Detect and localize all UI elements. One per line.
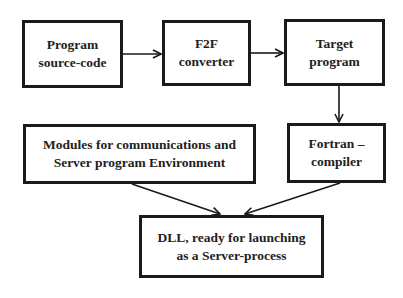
node-label-line: as a Server-process xyxy=(176,247,286,265)
node-label-line: Modules for communications and xyxy=(43,136,236,154)
flowchart-canvas: Program source-code F2F converter Target… xyxy=(0,0,403,298)
node-program-source-code: Program source-code xyxy=(22,20,123,88)
arrow-compiler-to-dll xyxy=(245,183,340,214)
node-label-line: Target xyxy=(316,35,354,53)
node-label-line: compiler xyxy=(311,153,362,171)
node-dll-server-process: DLL, ready for launching as a Server-pro… xyxy=(139,215,324,278)
node-target-program: Target program xyxy=(284,19,385,86)
node-label-line: converter xyxy=(179,53,234,71)
node-f2f-converter: F2F converter xyxy=(162,20,251,86)
arrow-modules-to-dll xyxy=(132,184,220,214)
node-label-line: Fortran – xyxy=(309,135,365,153)
node-fortran-compiler: Fortran – compiler xyxy=(287,123,386,183)
node-label-line: source-code xyxy=(39,54,107,72)
node-label-line: DLL, ready for launching xyxy=(157,229,305,247)
node-label-line: Server program Environment xyxy=(54,154,226,172)
node-label-line: F2F xyxy=(195,35,218,53)
node-label-line: program xyxy=(309,53,360,71)
node-modules-communications: Modules for communications and Server pr… xyxy=(23,124,256,184)
node-label-line: Program xyxy=(47,36,98,54)
